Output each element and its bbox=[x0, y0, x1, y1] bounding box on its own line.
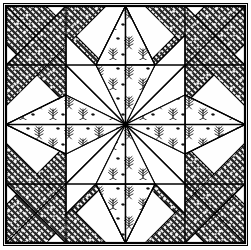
quilt-block-canvas bbox=[0, 0, 251, 250]
piecing-seam-lines bbox=[6, 6, 245, 243]
quilt-block-figure bbox=[0, 0, 251, 250]
